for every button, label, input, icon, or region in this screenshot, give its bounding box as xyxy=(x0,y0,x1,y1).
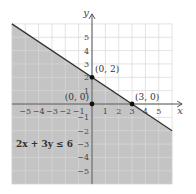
y-tick-label: −4 xyxy=(77,153,89,162)
data-point xyxy=(130,102,135,107)
point-label-0-0: (0, 0) xyxy=(65,92,89,102)
y-tick-label: 2 xyxy=(84,73,89,82)
x-tick-label: 2 xyxy=(116,107,121,116)
inequality-label: 2x + 3y ≤ 6 xyxy=(16,139,73,149)
data-point xyxy=(90,75,95,80)
y-tick-label: −1 xyxy=(77,113,89,122)
point-label-0-2: (0, 2) xyxy=(95,64,119,74)
x-tick-label: 3 xyxy=(130,107,135,116)
y-tick-label: 5 xyxy=(84,33,89,42)
y-tick-label: 4 xyxy=(84,47,89,56)
y-tick-label: −5 xyxy=(77,167,89,176)
x-tick-label: 5 xyxy=(156,107,161,116)
x-tick-label: 1 xyxy=(103,107,108,116)
x-tick-label: −2 xyxy=(59,107,71,116)
x-tick-label: 4 xyxy=(143,107,148,116)
x-tick-label: −3 xyxy=(46,107,58,116)
y-tick-label: −3 xyxy=(77,140,89,149)
data-point xyxy=(90,102,95,107)
point-label-3-0: (3, 0) xyxy=(135,92,159,102)
x-tick-label: −5 xyxy=(19,107,31,116)
y-axis-label: y xyxy=(82,7,89,18)
inequality-graph: −5−4−3−2−112345−5−4−3−2−112345 x y (0, 2… xyxy=(0,0,196,194)
x-tick-label: −4 xyxy=(33,107,45,116)
y-tick-label: 3 xyxy=(84,60,89,69)
y-tick-label: −2 xyxy=(77,127,89,136)
x-axis-label: x xyxy=(177,105,183,116)
